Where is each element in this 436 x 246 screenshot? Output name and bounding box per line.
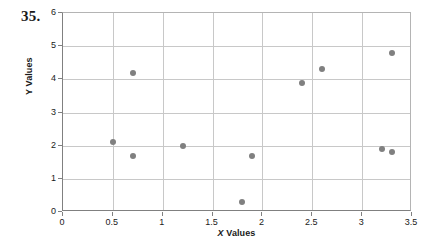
y-tick-mark bbox=[58, 12, 62, 13]
gridline-vertical bbox=[362, 13, 363, 210]
data-point bbox=[110, 139, 116, 145]
data-point bbox=[180, 143, 186, 149]
y-tick-mark bbox=[58, 145, 62, 146]
x-tick-mark bbox=[261, 212, 262, 216]
x-tick-label: 0 bbox=[47, 218, 77, 227]
gridline-vertical bbox=[213, 13, 214, 210]
gridline-vertical bbox=[312, 13, 313, 210]
y-tick-label: 3 bbox=[42, 108, 56, 117]
gridline-horizontal bbox=[63, 79, 410, 80]
x-axis-title-rest: Values bbox=[224, 228, 256, 238]
gridline-vertical bbox=[163, 13, 164, 210]
data-point bbox=[319, 66, 325, 72]
gridline-horizontal bbox=[63, 146, 410, 147]
y-tick-mark bbox=[58, 112, 62, 113]
y-tick-label: 2 bbox=[42, 141, 56, 150]
y-tick-label: 1 bbox=[42, 174, 56, 183]
data-point bbox=[239, 199, 245, 205]
scatter-chart: 0123456 00.511.522.533.5 Y Values X Valu… bbox=[0, 0, 436, 246]
gridline-horizontal bbox=[63, 46, 410, 47]
y-axis-title: Y Values bbox=[24, 57, 34, 95]
y-tick-label: 0 bbox=[42, 207, 56, 216]
y-tick-label: 5 bbox=[42, 41, 56, 50]
plot-area bbox=[62, 12, 411, 211]
x-tick-label: 3 bbox=[346, 218, 376, 227]
data-point bbox=[130, 70, 136, 76]
gridline-horizontal bbox=[63, 179, 410, 180]
x-tick-label: 0.5 bbox=[97, 218, 127, 227]
gridline-horizontal bbox=[63, 113, 410, 114]
x-tick-label: 2 bbox=[246, 218, 276, 227]
y-tick-label: 4 bbox=[42, 74, 56, 83]
gridline-vertical bbox=[262, 13, 263, 210]
x-tick-mark bbox=[212, 212, 213, 216]
x-tick-mark bbox=[311, 212, 312, 216]
data-point bbox=[130, 153, 136, 159]
x-tick-mark bbox=[112, 212, 113, 216]
data-point bbox=[249, 153, 255, 159]
y-tick-mark bbox=[58, 78, 62, 79]
data-point bbox=[389, 50, 395, 56]
x-axis-title: X Values bbox=[62, 228, 411, 238]
y-tick-mark bbox=[58, 178, 62, 179]
gridline-vertical bbox=[113, 13, 114, 210]
x-tick-label: 1.5 bbox=[197, 218, 227, 227]
x-tick-mark bbox=[411, 212, 412, 216]
y-tick-mark bbox=[58, 45, 62, 46]
x-tick-mark bbox=[62, 212, 63, 216]
x-tick-label: 3.5 bbox=[396, 218, 426, 227]
x-tick-mark bbox=[162, 212, 163, 216]
x-tick-label: 2.5 bbox=[296, 218, 326, 227]
data-point bbox=[299, 80, 305, 86]
data-point bbox=[389, 149, 395, 155]
x-tick-label: 1 bbox=[147, 218, 177, 227]
x-tick-mark bbox=[361, 212, 362, 216]
y-tick-label: 6 bbox=[42, 8, 56, 17]
data-point bbox=[379, 146, 385, 152]
